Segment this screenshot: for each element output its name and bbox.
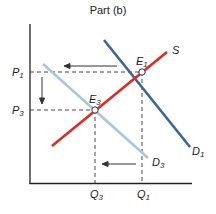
arrowhead-down-icon [40,98,45,104]
supply-demand-diagram: Part (b) E1 E3 S D1 D3 P1 P3 Q3 Q1 [0,0,216,214]
equilibrium-point-e1 [139,69,145,75]
diagram-title: Part (b) [90,4,127,16]
equilibrium-point-e3 [92,107,98,113]
p3-label: P3 [12,104,24,118]
d3-label: D3 [152,156,165,170]
q1-label: Q1 [137,188,150,202]
e1-label: E1 [136,55,148,69]
q3-label: Q3 [90,188,104,202]
supply-label: S [172,44,180,56]
arrowhead-left-icon [64,64,70,69]
e3-label: E3 [89,93,101,107]
p1-label: P1 [12,66,24,80]
d1-label: D1 [192,145,204,159]
arrowhead-left-icon [102,162,108,167]
